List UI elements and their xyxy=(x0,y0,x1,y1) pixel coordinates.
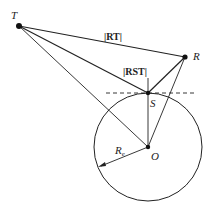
point-o xyxy=(146,145,150,149)
label-r: R xyxy=(192,50,200,62)
diagram-canvas: T R S O |RT| |RST| Re xyxy=(0,0,215,211)
point-t xyxy=(16,23,22,29)
line-t-s xyxy=(19,26,148,93)
line-t-r xyxy=(19,26,185,57)
label-rt: |RT| xyxy=(104,31,122,42)
label-o: O xyxy=(151,150,159,162)
label-rst: |RST| xyxy=(123,66,147,77)
label-radius: Re xyxy=(114,144,125,158)
label-t: T xyxy=(11,9,18,21)
point-s xyxy=(146,91,150,95)
geometry-diagram: T R S O |RT| |RST| Re xyxy=(0,0,215,211)
label-radius-sub: e xyxy=(122,150,125,158)
line-t-o xyxy=(19,26,148,147)
label-s: S xyxy=(150,97,156,109)
radius-arrowhead-icon xyxy=(98,162,106,167)
point-r xyxy=(182,54,187,59)
line-s-r xyxy=(148,57,185,93)
